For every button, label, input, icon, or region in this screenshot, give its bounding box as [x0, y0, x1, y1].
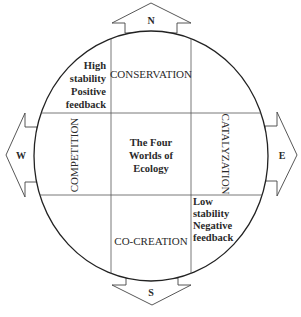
quadrant-competition: COMPETITION	[68, 118, 80, 193]
center-title: The Four Worlds of Ecology	[129, 137, 174, 174]
south-label: S	[148, 287, 154, 298]
east-arrow: E	[265, 112, 297, 196]
west-label: W	[16, 150, 26, 161]
svg-text:feedback: feedback	[193, 232, 233, 243]
east-label: E	[279, 150, 286, 161]
south-arrow: S	[112, 278, 191, 305]
quadrant-catalyzation: CATALYZATION	[220, 113, 232, 194]
svg-text:feedback: feedback	[66, 99, 106, 110]
svg-text:The Four: The Four	[130, 137, 173, 148]
west-arrow: W	[6, 113, 37, 197]
svg-text:stability: stability	[193, 208, 230, 219]
svg-text:Ecology: Ecology	[133, 163, 169, 174]
four-worlds-diagram: N S W E CONSERVATION CO-CREATION COMPETI…	[0, 0, 301, 317]
north-label: N	[147, 15, 155, 26]
svg-text:Worlds of: Worlds of	[129, 150, 174, 161]
svg-text:Low: Low	[193, 196, 213, 207]
svg-text:High: High	[84, 60, 106, 71]
quadrant-conservation: CONSERVATION	[110, 68, 192, 80]
svg-text:Negative: Negative	[193, 220, 232, 231]
quadrant-co-creation: CO-CREATION	[114, 235, 187, 247]
svg-text:Positive: Positive	[71, 86, 106, 97]
svg-text:stability: stability	[70, 73, 107, 84]
north-arrow: N	[112, 3, 191, 33]
